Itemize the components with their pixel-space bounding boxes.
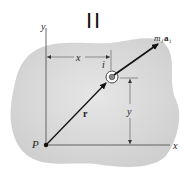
svg-text:m: m [154, 33, 161, 43]
y-axis-label: y [40, 21, 46, 32]
x-dimension-label: x [75, 52, 81, 63]
figure-marker: II [86, 8, 102, 33]
position-vector-label: r [83, 108, 88, 119]
y-dimension-label: y [126, 106, 132, 117]
svg-text:i: i [170, 38, 172, 44]
particle-label: i [102, 59, 105, 70]
svg-text:a: a [164, 33, 169, 43]
particle-inner [109, 74, 115, 80]
origin-label: P [31, 138, 39, 150]
x-axis-label: x [172, 140, 178, 151]
rigid-body-diagram: y x P x y r i m i a i II [0, 0, 191, 174]
inertia-force-label: m i a i [154, 33, 172, 44]
